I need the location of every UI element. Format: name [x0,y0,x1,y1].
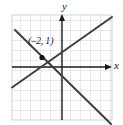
x-axis-label: x [114,60,119,71]
y-axis-label: y [62,1,67,12]
intersection-point-marker [39,55,44,60]
coordinate-plane-svg [0,0,123,125]
graph-figure: y x (–2, 1) [0,0,123,125]
intersection-point-label: (–2, 1) [28,36,53,46]
